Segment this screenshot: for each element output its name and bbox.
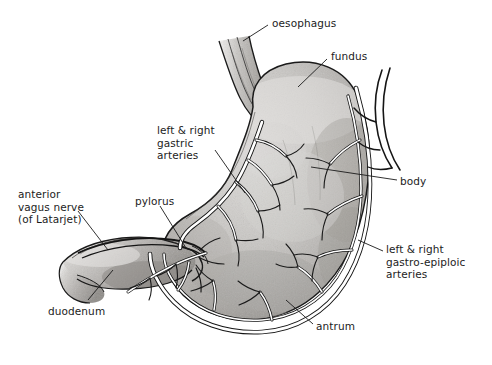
label-body: body (400, 175, 426, 188)
label-antrum: antrum (316, 320, 355, 333)
label-gastro-epiploic-arteries: left & right gastro-epiploic arteries (386, 243, 465, 281)
label-fundus: fundus (331, 50, 367, 63)
leader-oesophagus (243, 25, 268, 41)
anatomical-figure: oesophagus fundus left & right gastric a… (0, 0, 492, 365)
label-oesophagus: oesophagus (272, 17, 336, 30)
label-duodenum: duodenum (48, 305, 105, 318)
label-vagus-nerve: anterior vagus nerve (of Latarjet) (18, 188, 84, 226)
label-pylorus: pylorus (135, 195, 174, 208)
label-gastric-arteries: left & right gastric arteries (157, 124, 215, 162)
